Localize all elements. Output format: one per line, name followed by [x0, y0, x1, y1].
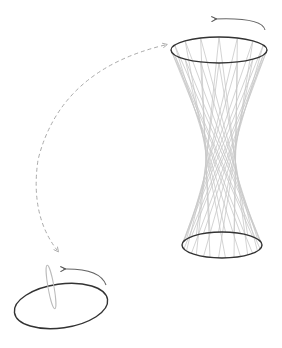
rotating-circle	[11, 278, 110, 335]
hyperboloid-diagram	[0, 0, 282, 348]
ruling-line	[187, 38, 238, 251]
diagram-canvas	[0, 0, 282, 348]
hyperboloid-rulings	[171, 37, 267, 258]
top-rotation-arrow-icon	[214, 19, 265, 30]
dashed-connector-arrow	[36, 45, 165, 250]
top-circle	[171, 37, 267, 63]
